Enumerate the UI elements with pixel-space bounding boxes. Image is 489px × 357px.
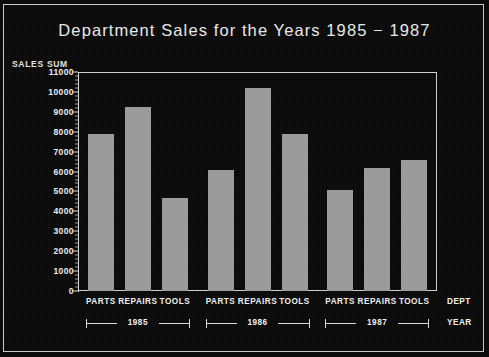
bar [88,134,114,291]
bracket-line-right [159,323,190,324]
y-axis-tick-label: 8000 [53,127,74,137]
bar-series [78,72,437,291]
bracket-cap-right [428,319,429,328]
x-axis-group-label: 1985 [128,318,148,327]
bar [327,190,353,291]
x-axis-group-label: 1987 [367,318,387,327]
x-axis-name-dept: DEPT [447,297,471,306]
x-axis-category-label: PARTS [325,297,355,306]
x-axis-category-label: REPAIRS [358,297,397,306]
x-axis-category-label: REPAIRS [238,297,277,306]
y-axis-tick-label: 4000 [53,206,74,216]
bracket-line-left [206,323,237,324]
x-axis-category-label: PARTS [86,297,116,306]
y-axis-tick-label: 1000 [53,266,74,276]
x-axis-category-label: PARTS [206,297,236,306]
bar [208,170,234,291]
chart-screenshot: Department Sales for the Years 1985 − 19… [0,0,489,357]
bracket-line-left [325,323,356,324]
bracket-line-left [86,323,117,324]
y-axis-tick-labels: 1100010000900080007000600050004000300020… [0,0,74,357]
x-axis-category-label: TOOLS [399,297,430,306]
x-axis-group-bracket: 1985 [86,318,190,331]
y-axis-tick-label: 5000 [53,186,74,196]
x-axis-group-bracket: 1987 [325,318,429,331]
bar [401,160,427,291]
bracket-line-right [398,323,429,324]
y-axis-tick-label: 6000 [53,167,74,177]
y-axis-tick-label: 11000 [49,67,74,77]
y-axis-tick-label: 9000 [53,107,74,117]
y-axis-tick-label: 2000 [53,246,74,256]
bar [364,168,390,291]
y-axis-tick-label: 7000 [53,147,74,157]
x-axis-category-label: TOOLS [160,297,191,306]
bar [125,107,151,291]
y-axis-tick-label: 3000 [53,226,74,236]
x-axis-category-label: REPAIRS [118,297,157,306]
bar [282,134,308,291]
bracket-line-right [278,323,309,324]
x-axis-group-bracket: 1986 [206,318,310,331]
bracket-cap-right [189,319,190,328]
x-axis-group-label: 1986 [247,318,267,327]
x-axis-category-label: TOOLS [279,297,310,306]
bracket-cap-right [309,319,310,328]
y-axis-tick-label: 10000 [48,87,74,97]
bar [162,198,188,291]
bar [245,88,271,291]
x-axis-name-year: YEAR [447,318,472,327]
